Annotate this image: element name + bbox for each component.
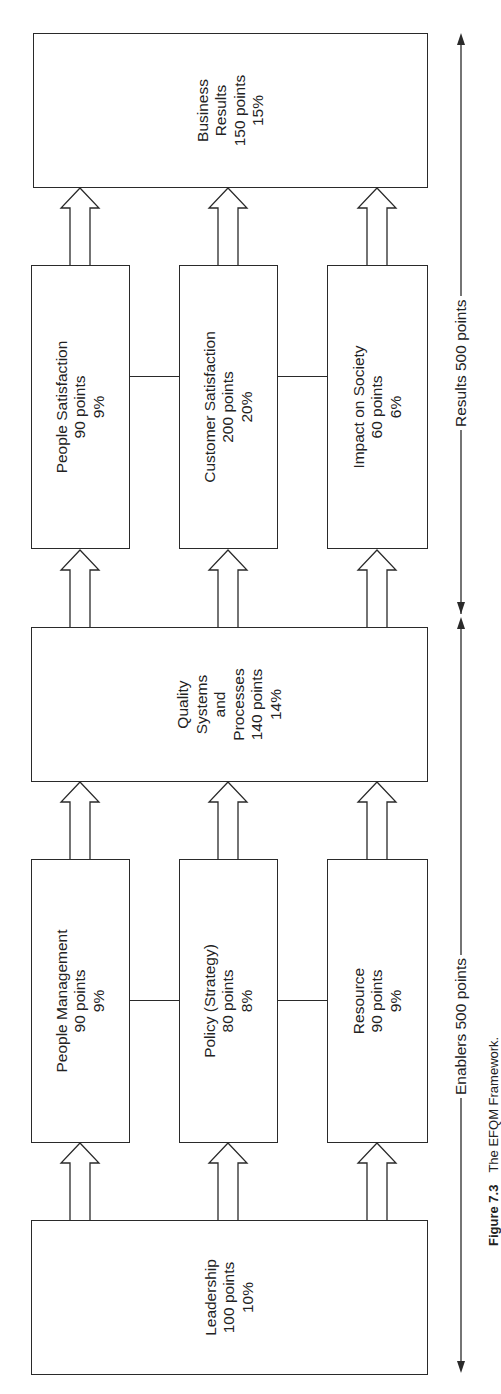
figure-caption: Figure 7.3The EFQM Framework.: [486, 1037, 501, 1246]
results-span-label: Results 500 points: [452, 296, 470, 430]
figure-caption-text: The EFQM Framework.: [486, 1037, 501, 1173]
efqm-diagram: Leadership 100 points 10% People Managem…: [0, 0, 501, 1394]
flow-arrows: [0, 0, 501, 1394]
enablers-span-label: Enablers 500 points: [452, 955, 470, 1098]
figure-number: Figure 7.3: [486, 1185, 501, 1246]
